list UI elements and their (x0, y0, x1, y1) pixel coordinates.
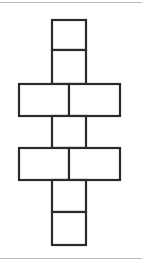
net-cell-bottom-square-1 (52, 180, 86, 212)
bottom-divider-rule (0, 258, 142, 259)
net-cell-middle-square (52, 116, 86, 148)
net-cell-row2-right (69, 148, 120, 180)
net-cell-top-square-1 (52, 20, 86, 50)
net-cell-row2-left (19, 148, 69, 180)
net-cell-top-square-2 (52, 50, 86, 84)
net-cell-bottom-square-2 (52, 212, 86, 245)
cube-net-diagram (0, 0, 142, 268)
net-cell-group (19, 20, 120, 245)
net-cell-row1-right (69, 84, 120, 116)
net-cell-row1-left (19, 84, 69, 116)
diagram-page (0, 0, 142, 268)
